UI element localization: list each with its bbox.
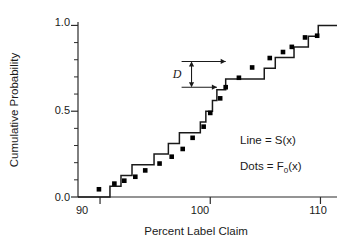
data-point [267, 56, 272, 61]
x-axis-title: Percent Label Claim [144, 225, 248, 237]
data-point [303, 35, 308, 40]
x-tick-label-100: 100 [191, 204, 209, 216]
y-axis-title: Cumulative Probability [8, 53, 20, 168]
y-tick-label-0.5: 0.5 [55, 104, 70, 116]
data-point [122, 178, 127, 183]
data-point [97, 187, 102, 192]
y-tick-label-0.0: 0.0 [55, 191, 70, 203]
y-tick-label-1.0: 1.0 [55, 16, 70, 28]
x-tick-label-110: 110 [309, 204, 327, 216]
legend-line-entry: Line = S(x) [240, 134, 296, 146]
legend-dots-suffix: (x) [288, 160, 302, 172]
data-point [218, 96, 223, 101]
x-tick-label-90: 90 [76, 204, 88, 216]
data-point [223, 85, 228, 90]
data-point [133, 174, 138, 179]
d-annotation-label: D [172, 67, 182, 81]
legend-dots-entry: Dots = F0(x) [240, 160, 302, 175]
chart-figure: Cumulative Probability Percent Label Cla… [0, 0, 345, 249]
data-point [201, 124, 206, 129]
data-point [190, 136, 195, 141]
data-point [112, 181, 117, 186]
d-vertical-arrowhead-bottom [189, 82, 194, 87]
legend-dots-prefix: Dots = F [240, 160, 284, 172]
data-point [237, 75, 242, 80]
data-point [169, 154, 174, 159]
data-point [250, 65, 255, 70]
data-point [180, 147, 185, 152]
data-point [281, 50, 286, 55]
axes-group [71, 22, 337, 204]
d-vertical-arrowhead-top [189, 61, 194, 66]
data-point [315, 33, 320, 38]
data-point [208, 111, 213, 116]
data-point [290, 45, 295, 50]
data-point [157, 161, 162, 166]
d-distance-annotation [182, 59, 226, 90]
d-upper-arrowhead [221, 59, 226, 64]
chart-canvas: Cumulative Probability Percent Label Cla… [0, 0, 345, 249]
d-lower-arrowhead [212, 85, 217, 90]
data-point [143, 168, 148, 173]
